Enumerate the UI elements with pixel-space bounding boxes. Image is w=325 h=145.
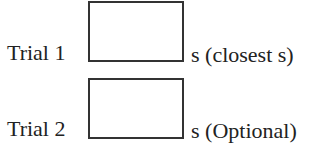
trial-2-unit: s (Optional)	[191, 120, 297, 142]
trial-1-input[interactable]	[88, 1, 184, 62]
trial-1-unit: s (closest s)	[191, 44, 294, 66]
trial-2-input[interactable]	[88, 78, 184, 139]
trial-1-label: Trial 1	[7, 42, 65, 64]
trial-2-label: Trial 2	[7, 118, 65, 140]
